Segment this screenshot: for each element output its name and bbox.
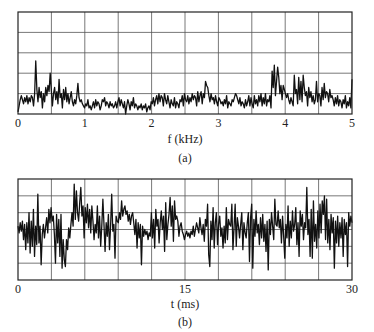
x-tick-label: 3	[215, 116, 221, 130]
x-axis-label-a: f (kHz)	[168, 132, 203, 146]
x-tick-label: 0	[15, 116, 21, 130]
x-axis-label-b: t (ms)	[171, 297, 199, 311]
panel-b-waveform: 01530 t (ms) (b)	[15, 179, 358, 329]
panel-a-spectrum: 012345 f (kHz) (a)	[15, 12, 355, 165]
caption-b: (b)	[178, 315, 192, 329]
x-tick-labels-a: 012345	[15, 116, 355, 130]
x-tick-label: 4	[282, 116, 288, 130]
x-tick-label: 15	[179, 282, 191, 296]
x-tick-label: 0	[15, 282, 21, 296]
figure: 012345 f (kHz) (a) 01530 t (ms) (b)	[0, 0, 374, 332]
x-tick-label: 30	[346, 282, 358, 296]
caption-a: (a)	[178, 151, 191, 165]
x-tick-label: 5	[349, 116, 355, 130]
x-tick-labels-b: 01530	[15, 282, 358, 296]
x-tick-label: 1	[82, 116, 88, 130]
x-tick-label: 2	[149, 116, 155, 130]
